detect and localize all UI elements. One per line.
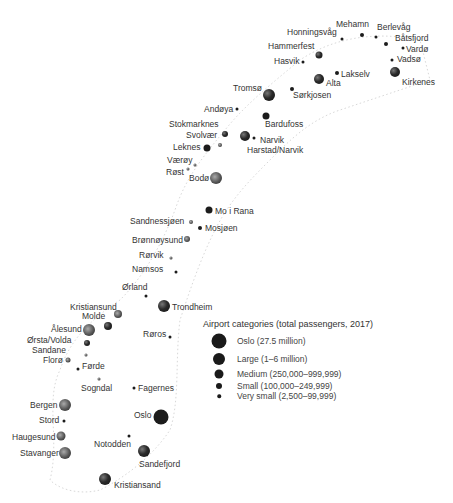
airport-label: Hammerfest <box>268 42 314 51</box>
norway-outline <box>0 0 453 503</box>
airport-dot-icon <box>335 71 339 75</box>
airport-label: Førde <box>82 362 105 371</box>
airport-label: Værøy <box>167 156 193 165</box>
airport-label: Stokmarknes <box>169 120 219 129</box>
airport-dot-icon <box>210 172 222 184</box>
airport-dot-icon <box>198 226 202 230</box>
circle-large-icon <box>213 353 225 365</box>
airport-dot-icon <box>263 89 275 101</box>
airport-dot-icon <box>206 207 213 214</box>
airport-label: Notodden <box>94 440 131 449</box>
airport-label: Stord <box>39 416 59 425</box>
airport-label: Lakselv <box>341 70 370 79</box>
airport-label: Stavanger <box>20 449 59 458</box>
airport-label: Andøya <box>204 105 233 114</box>
airport-label: Ørsta/Volda <box>27 336 71 345</box>
legend-item-very-small: Very small (2,500–99,999) <box>203 396 403 410</box>
airport-dot-icon <box>57 432 66 441</box>
airport-dot-icon <box>66 358 71 363</box>
airport-dot-icon <box>375 36 378 39</box>
airport-label: Florø <box>43 356 63 365</box>
airport-dot-icon <box>314 74 324 84</box>
airport-label: Båtsfjord <box>395 34 429 43</box>
airport-label: Kristiansand <box>114 481 161 490</box>
map-legend: Airport categories (total passengers, 20… <box>203 319 403 329</box>
legend-title: Airport categories (total passengers, 20… <box>203 319 403 329</box>
airport-label: Ålesund <box>51 325 82 334</box>
airport-label: Brønnøysund <box>132 236 183 245</box>
airport-label: Honningsvåg <box>287 28 337 37</box>
airport-dot-icon <box>133 387 136 390</box>
airport-label: Harstad/Narvik <box>247 146 303 155</box>
airport-label: Hasvik <box>274 57 300 66</box>
airport-dot-icon <box>236 108 239 111</box>
circle-medium-icon <box>215 370 224 379</box>
airport-dot-icon <box>59 399 71 411</box>
airport-label: Alta <box>326 79 341 88</box>
airport-dot-icon <box>128 435 131 438</box>
airport-dot-icon <box>222 131 228 137</box>
airport-label: Narvik <box>260 136 284 145</box>
airport-dot-icon <box>169 336 172 339</box>
airport-label: Vardø <box>406 45 429 54</box>
airport-dot-icon <box>145 295 148 298</box>
airport-label: Sogndal <box>81 384 112 393</box>
airport-dot-icon <box>204 145 211 152</box>
airport-dot-icon <box>341 38 344 41</box>
airport-label: Oslo <box>134 411 151 420</box>
circle-very-small-icon <box>217 394 221 398</box>
airport-dot-icon <box>59 447 71 459</box>
airport-dot-icon <box>360 33 364 37</box>
airport-label: Kirkenes <box>402 78 435 87</box>
airport-label: Bodø <box>189 174 209 183</box>
airport-dot-icon <box>189 220 193 224</box>
airport-dot-icon <box>175 271 178 274</box>
airport-dot-icon <box>384 42 388 46</box>
airport-dot-icon <box>84 340 90 346</box>
airport-label: Mehamn <box>336 20 369 29</box>
airport-label: Molde <box>82 312 105 321</box>
airport-label: Sørkjosen <box>293 91 331 100</box>
airport-dot-icon <box>99 473 111 485</box>
airport-dot-icon <box>138 445 150 457</box>
airport-label: Bardufoss <box>265 120 303 129</box>
airport-dot-icon <box>184 236 190 242</box>
airport-label: Sandane <box>32 346 66 355</box>
airport-dot-icon <box>302 61 305 64</box>
airport-dot-icon <box>98 378 101 381</box>
circle-small-icon <box>216 383 222 389</box>
airport-map: Mehamn Berlevåg Honningsvåg Båtsfjord Ha… <box>0 0 453 503</box>
airport-label: Rørvik <box>139 251 164 260</box>
airport-label: Sandnessjøen <box>130 217 184 226</box>
airport-dot-icon <box>154 410 169 425</box>
airport-label: Ørland <box>122 283 148 292</box>
airport-label: Mosjøen <box>205 224 238 233</box>
airport-dot-icon <box>316 52 323 59</box>
airport-label: Røst <box>166 168 184 177</box>
airport-label: Haugesund <box>12 433 55 442</box>
airport-dot-icon <box>194 164 197 167</box>
airport-label: Berlevåg <box>377 23 411 32</box>
legend-item-oslo: Oslo (27.5 million) <box>203 341 403 355</box>
airport-label: Sandefjord <box>139 460 180 469</box>
airport-dot-icon <box>77 368 80 371</box>
airport-dot-icon <box>170 257 173 260</box>
airport-label: Mo i Rana <box>215 207 254 216</box>
airport-label: Tromsø <box>233 84 262 93</box>
airport-dot-icon <box>85 354 88 357</box>
airport-label: Leknes <box>173 143 200 152</box>
airport-dot-icon <box>390 67 400 77</box>
airport-label: Røros <box>143 330 166 339</box>
airport-label: Bergen <box>30 401 57 410</box>
airport-dot-icon <box>104 322 112 330</box>
airport-dot-icon <box>240 131 250 141</box>
airport-dot-icon <box>391 59 394 62</box>
airport-label: Namsos <box>132 265 163 274</box>
airport-label: Svolvær <box>186 131 217 140</box>
airport-dot-icon <box>218 143 222 147</box>
airport-dot-icon <box>402 47 405 50</box>
airport-dot-icon <box>63 420 66 423</box>
airport-dot-icon <box>187 168 190 171</box>
airport-label: Vadsø <box>397 55 421 64</box>
airport-label: Fagernes <box>138 384 174 393</box>
